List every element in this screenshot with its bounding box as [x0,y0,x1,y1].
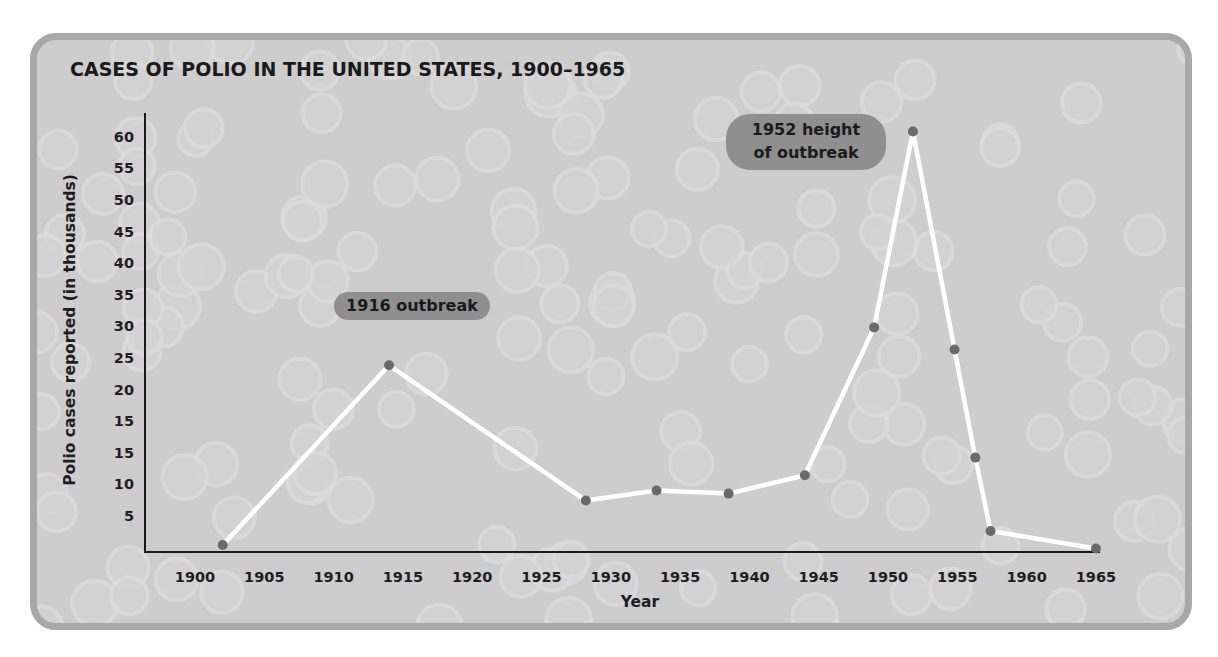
virus-particle [283,202,322,241]
virus-particle [832,482,867,517]
virus-particle [279,359,320,400]
data-point [908,126,918,136]
data-point [950,345,960,355]
virus-particle [417,605,461,630]
y-tick-label: 45 [114,224,134,240]
virus-particle [548,328,593,373]
virus-particle [879,336,919,376]
data-point [986,526,996,536]
x-tick-label: 1930 [591,569,631,585]
y-tick-label: 40 [114,255,134,271]
virus-particle [546,598,591,630]
virus-particle [1138,574,1182,618]
virus-particle [479,527,514,562]
y-tick-label: 20 [114,382,134,398]
data-point [869,322,879,332]
virus-particle [37,313,57,353]
data-point [1091,544,1101,554]
virus-particle [981,128,1019,166]
y-tick-label: 60 [114,129,134,145]
data-point [652,485,662,495]
virus-particle [155,172,195,212]
virus-particle [1046,589,1085,628]
virus-particle [1120,380,1156,416]
x-tick-label: 1965 [1076,569,1116,585]
virus-particle [780,66,820,106]
virus-particle [496,248,539,291]
virus-particle [896,61,935,100]
virus-particle [555,169,598,212]
data-point [384,360,394,370]
virus-particle [1178,40,1192,66]
y-tick-label: 50 [114,192,134,208]
virus-particle [750,244,788,282]
data-point [218,540,228,550]
x-tick-label: 1950 [868,569,908,585]
virus-particle [179,244,224,289]
virus-particle [77,242,117,282]
virus-particle [1049,228,1086,265]
virus-particle [406,353,447,394]
virus-particle [632,212,666,246]
chart-frame: CASES OF POLIO IN THE UNITED STATES, 190… [30,33,1192,630]
virus-particle [1071,380,1110,419]
virus-particle [741,72,780,111]
virus-particle [39,131,77,169]
x-tick-label: 1935 [660,569,700,585]
virus-particle [111,577,148,614]
virus-particle [593,286,634,327]
virus-particle [494,206,538,250]
x-tick-label: 1900 [175,569,215,585]
y-tick-label: 5 [124,508,134,524]
virus-particle [303,94,341,132]
virus-particle [732,347,767,382]
chart-title: CASES OF POLIO IN THE UNITED STATES, 190… [70,58,625,80]
virus-particle [795,233,838,276]
virus-particle [877,293,918,334]
x-tick-label: 1955 [937,569,977,585]
virus-particle [37,394,59,429]
virus-particle [379,392,414,427]
virus-particle [554,114,594,154]
virus-particle [888,489,928,529]
y-tick-label: 15 [114,413,134,429]
x-tick-label: 1945 [799,569,839,585]
virus-particle [632,334,677,379]
y-tick-label: 55 [114,160,134,176]
x-tick-label: 1925 [521,569,561,585]
virus-particle [302,162,347,207]
virus-particle [1069,337,1108,376]
y-tick-label: 30 [114,318,134,334]
x-tick-label: 1915 [383,569,423,585]
data-point [970,453,980,463]
virus-particle [1162,289,1192,326]
chart-svg: CASES OF POLIO IN THE UNITED STATES, 190… [37,40,1192,630]
virus-particle [1133,331,1167,365]
y-axis-title: Polio cases reported (in thousands) [61,174,79,486]
virus-particle [701,226,743,268]
virus-particle [347,40,386,60]
virus-particle [150,219,185,254]
virus-particle [416,158,459,201]
virus-particle [375,165,415,205]
background-virus-pattern [37,40,1192,630]
x-tick-label: 1905 [244,569,284,585]
virus-particle [1125,215,1164,254]
x-tick-label: 1940 [729,569,769,585]
virus-particle [279,257,313,291]
y-tick-label: 15 [114,445,134,461]
virus-particle [798,190,834,226]
annotation-text: of outbreak [753,143,859,162]
annotation-peak-1952: 1952 heightof outbreak [726,114,886,170]
x-tick-label: 1960 [1006,569,1046,585]
data-point [581,496,591,506]
virus-particle [588,359,623,394]
x-tick-label: 1910 [313,569,353,585]
virus-particle [793,594,837,630]
data-point [800,470,810,480]
virus-particle [37,492,76,531]
y-axis-title-group: Polio cases reported (in thousands) [61,174,79,486]
virus-particle [924,438,960,474]
annotation-outbreak-1916: 1916 outbreak [334,292,490,320]
virus-particle [1022,287,1057,322]
